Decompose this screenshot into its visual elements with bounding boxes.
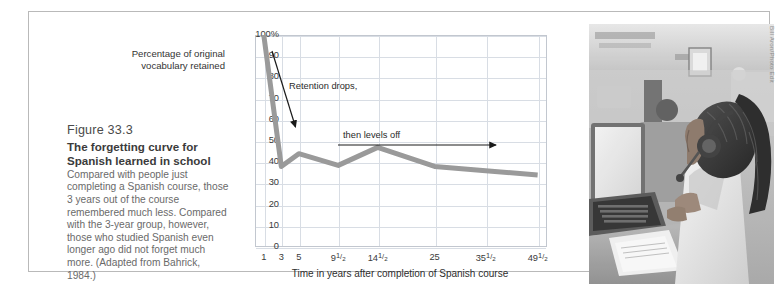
retention-drops-label: Retention drops,	[289, 81, 357, 92]
figure-frame: Figure 33.3 The forgetting curve for Spa…	[28, 11, 770, 272]
x-axis-tick-label: 141/2	[353, 252, 403, 263]
figure-caption: Figure 33.3 The forgetting curve for Spa…	[67, 124, 229, 282]
caption-body: Compared with people just completing a S…	[67, 169, 228, 281]
levels-off-label: then levels off	[343, 130, 400, 140]
x-axis-tick-label: 25	[410, 252, 460, 262]
caption-text: The forgetting curve for Spanish learned…	[67, 140, 229, 283]
x-axis-tick-label: 351/2	[461, 252, 511, 263]
x-axis-tick-label: 491/2	[513, 252, 563, 263]
y-axis-title: Percentage of original vocabulary retain…	[117, 48, 225, 73]
series-line	[255, 35, 547, 247]
photo-student-at-computer	[589, 24, 774, 284]
figure-number: Figure 33.3	[67, 124, 229, 137]
gridline-horizontal	[256, 248, 546, 249]
forgetting-curve-chart: 100%9080706050403020100 13591/2141/22535…	[225, 34, 575, 284]
photo-illustration	[589, 24, 774, 284]
caption-title: The forgetting curve for Spanish learned…	[67, 140, 211, 168]
x-axis-title: Time in years after completion of Spanis…	[225, 268, 575, 279]
photo-credit: Bill Aron/Photo Edit	[769, 26, 776, 83]
